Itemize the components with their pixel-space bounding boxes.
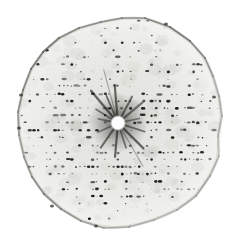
photo-frame — [0, 0, 232, 243]
diffraction-photograph — [0, 0, 232, 243]
